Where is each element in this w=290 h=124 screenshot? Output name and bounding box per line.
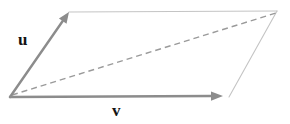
- parallelogram-canvas: [0, 0, 290, 124]
- vector-v-arrowhead: [211, 91, 223, 100]
- vector-u-label: u: [18, 31, 27, 48]
- vector-u-arrowhead: [59, 12, 69, 24]
- vector-parallelogram-figure: u v: [0, 0, 290, 124]
- vector-v-label: v: [112, 102, 121, 119]
- vector-v-shaft: [10, 96, 211, 97]
- parallelogram-top-edge: [69, 11, 277, 12]
- parallelogram-right-edge: [229, 11, 277, 97]
